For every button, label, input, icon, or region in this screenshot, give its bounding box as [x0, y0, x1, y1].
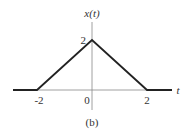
signal-curve — [13, 40, 172, 90]
y-axis-label: x(t) — [83, 7, 100, 20]
peak-label: 2 — [81, 34, 87, 46]
figure-caption: (b) — [86, 116, 99, 129]
x-axis-label: t — [176, 84, 180, 96]
tick-label-neg2: -2 — [34, 94, 43, 106]
tick-label-2: 2 — [144, 94, 150, 106]
tick-label-0: 0 — [84, 94, 90, 106]
triangle-signal-plot: x(t) t 2 -2 0 2 (b) — [0, 0, 190, 138]
